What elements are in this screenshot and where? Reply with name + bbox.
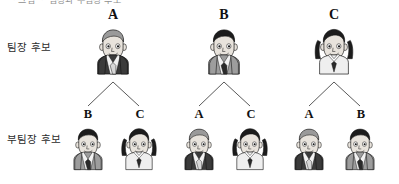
node-label-deputy-1a: B [79, 108, 97, 121]
avatar-leader-3 [310, 22, 358, 80]
avatar-deputy-3b [338, 122, 382, 175]
node-label-deputy-2a: A [190, 108, 208, 121]
avatar-deputy-2b [228, 122, 272, 175]
node-label-leader-3: C [324, 8, 344, 22]
avatar-deputy-2a [177, 122, 221, 175]
node-label-leader-1: A [103, 8, 123, 22]
node-label-deputy-3b: B [352, 108, 370, 121]
avatar-leader-1 [89, 22, 137, 80]
figure-caption: ㆍ그림 ㆍ 팀장과 부팀장 후보 [10, 0, 121, 6]
node-label-leader-2: B [214, 8, 234, 22]
node-label-deputy-3a: A [300, 108, 318, 121]
row-label-team-leader: 팀장 후보 [7, 39, 51, 54]
avatar-deputy-1b [117, 122, 161, 175]
avatar-deputy-3a [287, 122, 331, 175]
tree-diagram-figure: ㆍ그림 ㆍ 팀장과 부팀장 후보 팀장 후보 부팀장 후보 A B C B C … [0, 0, 399, 184]
avatar-leader-2 [200, 22, 248, 80]
node-label-deputy-1b: C [131, 108, 149, 121]
row-label-deputy-leader: 부팀장 후보 [7, 131, 61, 146]
node-label-deputy-2b: C [242, 108, 260, 121]
avatar-deputy-1a [66, 122, 110, 175]
